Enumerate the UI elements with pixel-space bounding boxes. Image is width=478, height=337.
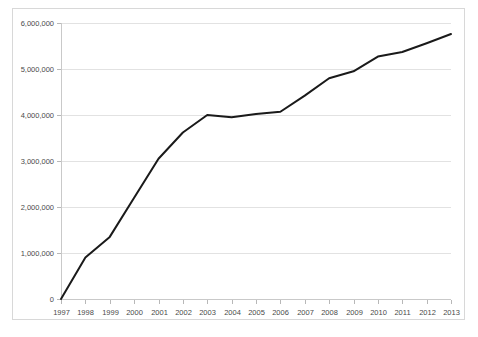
x-axis-tick-labels: 1997199819992000200120022003200420052006… <box>53 308 460 317</box>
x-tick-label: 2006 <box>272 308 289 317</box>
y-axis-tick-labels: 01,000,0002,000,0003,000,0004,000,0005,0… <box>21 19 54 304</box>
gridline-group <box>61 24 451 254</box>
y-tick-label: 5,000,000 <box>21 65 54 74</box>
line-chart-figure: 01,000,0002,000,0003,000,0004,000,0005,0… <box>0 0 478 337</box>
x-tick-label: 2009 <box>346 308 363 317</box>
chart-canvas: 01,000,0002,000,0003,000,0004,000,0005,0… <box>13 9 464 319</box>
x-tick-label: 2013 <box>443 308 460 317</box>
x-tick-label: 2008 <box>321 308 338 317</box>
x-tick-label: 2007 <box>297 308 314 317</box>
y-tick-label: 3,000,000 <box>21 157 54 166</box>
x-tick-label: 2003 <box>199 308 216 317</box>
tickmark-group <box>57 24 452 304</box>
y-tick-label: 6,000,000 <box>21 19 54 28</box>
y-tick-label: 4,000,000 <box>21 111 54 120</box>
x-tick-label: 2001 <box>151 308 168 317</box>
y-tick-label: 1,000,000 <box>21 249 54 258</box>
y-tick-label: 2,000,000 <box>21 203 54 212</box>
x-tick-label: 2012 <box>419 308 436 317</box>
x-tick-label: 1999 <box>102 308 119 317</box>
x-tick-label: 2011 <box>394 308 410 317</box>
x-tick-label: 2000 <box>126 308 143 317</box>
chart-plot-frame: 01,000,0002,000,0003,000,0004,000,0005,0… <box>12 8 465 320</box>
y-tick-label: 0 <box>50 295 54 304</box>
x-tick-label: 2005 <box>248 308 265 317</box>
x-tick-label: 2010 <box>370 308 387 317</box>
x-tick-label: 2002 <box>175 308 192 317</box>
x-tick-label: 1997 <box>53 308 70 317</box>
x-tick-label: 2004 <box>224 308 241 317</box>
data-series-line <box>61 34 451 299</box>
x-tick-label: 1998 <box>77 308 94 317</box>
